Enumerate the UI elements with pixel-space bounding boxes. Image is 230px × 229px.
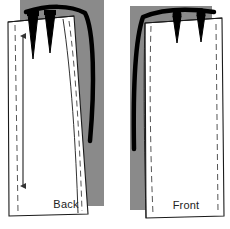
dart-back-2-cap <box>44 10 56 15</box>
front-piece-outline <box>145 18 224 218</box>
panel-label-front: Front <box>173 199 200 211</box>
dart-front-2-cap <box>197 8 206 20</box>
panel-front: Front <box>130 6 224 218</box>
dart-front-1-cap <box>173 9 182 21</box>
panel-label-back: Back <box>53 198 79 210</box>
dart-back-1-cap <box>27 11 39 16</box>
pattern-diagram-figure: Back Front <box>0 0 230 229</box>
panel-back: Back <box>8 0 104 216</box>
back-piece-outline <box>8 16 88 216</box>
pattern-diagram-canvas: Back Front <box>0 0 230 229</box>
